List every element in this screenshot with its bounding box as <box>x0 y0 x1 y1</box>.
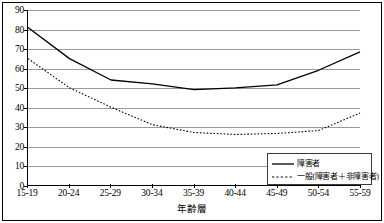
legend-item-disabled: 障害者 <box>272 157 368 170</box>
legend-label-general: 一般(障害者＋非障害者) <box>297 172 379 181</box>
x-axis-title: 年齢層 <box>0 203 384 215</box>
solid-line-icon <box>272 160 294 168</box>
legend-label-disabled: 障害者 <box>297 159 320 168</box>
chart-container: 0102030405060708090 15-1920-2425-2930-34… <box>0 0 384 223</box>
series-line-2 <box>28 59 360 135</box>
dotted-line-icon <box>272 173 294 181</box>
chart-legend: 障害者 一般(障害者＋非障害者) <box>267 153 372 185</box>
series-line-1 <box>28 28 360 90</box>
legend-item-general: 一般(障害者＋非障害者) <box>272 170 368 183</box>
